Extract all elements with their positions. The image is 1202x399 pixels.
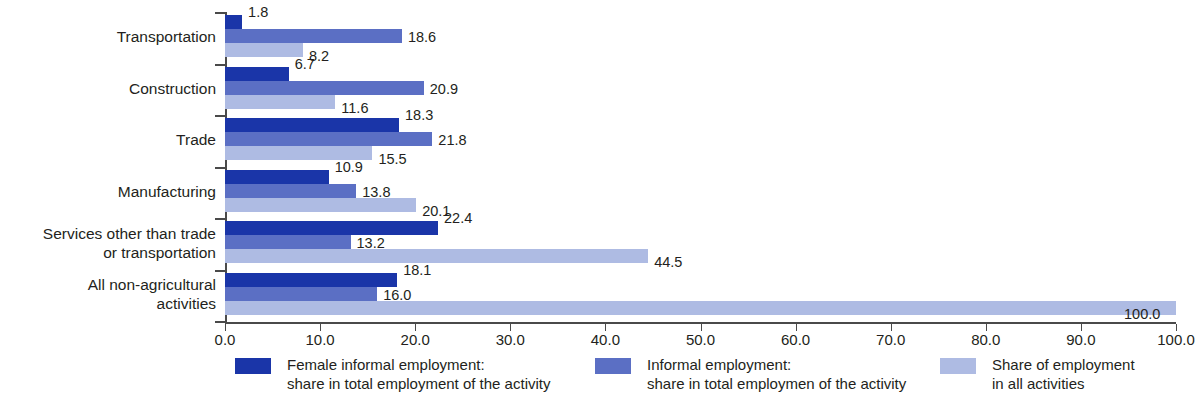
y-axis-tick [215,12,225,14]
bar [225,81,424,95]
category-label-line: or transportation [0,243,216,262]
bar [225,287,377,301]
plot-area: 1.818.68.26.720.911.618.321.815.510.913.… [225,12,1176,322]
category-label-line: Construction [0,79,216,98]
chart-legend: Female informal employment:share in tota… [0,355,1202,399]
x-axis-tick-label: 40.0 [575,331,635,348]
bar [225,198,416,212]
category-label-line: activities [0,294,216,313]
x-axis-tick-label: 80.0 [956,331,1016,348]
legend-swatch [595,358,631,374]
x-axis-tick [986,324,987,331]
bar-value-label: 6.7 [295,57,315,71]
bar-value-label: 13.8 [362,185,390,199]
legend-label: Share of employmentin all activities [992,355,1135,393]
y-axis-tick [215,321,225,323]
bar-value-label: 18.3 [405,108,433,122]
bar [225,118,399,132]
x-axis-tick [510,324,511,331]
legend-swatch [940,358,976,374]
x-axis-tick [1176,324,1177,331]
x-axis-tick-label: 30.0 [480,331,540,348]
bar [225,221,438,235]
x-axis-tick [796,324,797,331]
x-axis-tick [225,324,226,331]
bar-value-label: 10.9 [335,160,363,174]
x-axis-tick-label: 70.0 [861,331,921,348]
bar-value-label: 11.6 [341,101,368,115]
category-label: All non-agriculturalactivities [0,275,216,313]
bar-value-label: 22.4 [444,211,472,225]
category-label-line: Transportation [0,27,216,46]
x-axis-tick-label: 10.0 [290,331,350,348]
bar [225,67,289,81]
bar-value-label: 1.8 [248,5,268,19]
category-label: Transportation [0,27,216,46]
bar-value-label: 18.6 [408,30,436,44]
x-axis-tick-label: 60.0 [766,331,826,348]
legend-label: Informal employment:share in total emplo… [647,355,906,393]
y-axis-tick [215,167,225,169]
y-axis-tick [215,270,225,272]
bar-value-label: 18.1 [403,263,431,277]
y-axis-tick [215,64,225,66]
bar [225,29,402,43]
bar [225,273,397,287]
x-axis-tick [320,324,321,331]
legend-label-line1: Informal employment: [647,355,906,374]
bar [225,15,242,29]
category-label-line: Trade [0,130,216,149]
bar-value-label: 21.8 [438,133,466,147]
legend-swatch [235,358,271,374]
x-axis-tick-label: 0.0 [195,331,255,348]
x-axis-tick [605,324,606,331]
bar [225,249,648,263]
y-axis-tick [215,218,225,220]
bar-value-label: 13.2 [357,236,385,250]
bar-value-label: 44.5 [654,255,682,269]
legend-label-line2: share in total employment of the activit… [287,374,550,393]
bar [225,235,351,249]
category-label: Construction [0,79,216,98]
bar-chart: TransportationConstructionTradeManufactu… [0,0,1202,399]
legend-label-line1: Female informal employment: [287,355,550,374]
bar [225,43,303,57]
bar [225,170,329,184]
legend-label-line2: in all activities [992,374,1135,393]
x-axis-tick-label: 100.0 [1146,331,1202,348]
bar [225,146,372,160]
bar-value-label: 16.0 [383,288,411,302]
bar [225,95,335,109]
x-axis-tick [1081,324,1082,331]
bar-value-label: 15.5 [378,152,406,166]
x-axis-tick [415,324,416,331]
category-label-line: Manufacturing [0,182,216,201]
category-label-line: Services other than trade [0,224,216,243]
category-label: Trade [0,130,216,149]
x-axis-tick [701,324,702,331]
y-axis-tick [215,115,225,117]
legend-label-line1: Share of employment [992,355,1135,374]
bar [225,301,1176,315]
x-axis-tick-label: 50.0 [671,331,731,348]
bar [225,184,356,198]
category-label: Services other than tradeor transportati… [0,224,216,262]
bar [225,132,432,146]
category-label-line: All non-agricultural [0,275,216,294]
legend-label: Female informal employment:share in tota… [287,355,550,393]
bar-value-label: 100.0 [1124,307,1160,321]
category-label: Manufacturing [0,182,216,201]
legend-label-line2: share in total employmen of the activity [647,374,906,393]
x-axis-tick-label: 90.0 [1051,331,1111,348]
bar-value-label: 20.9 [430,82,458,96]
x-axis-tick [891,324,892,331]
x-axis-tick-label: 20.0 [385,331,445,348]
